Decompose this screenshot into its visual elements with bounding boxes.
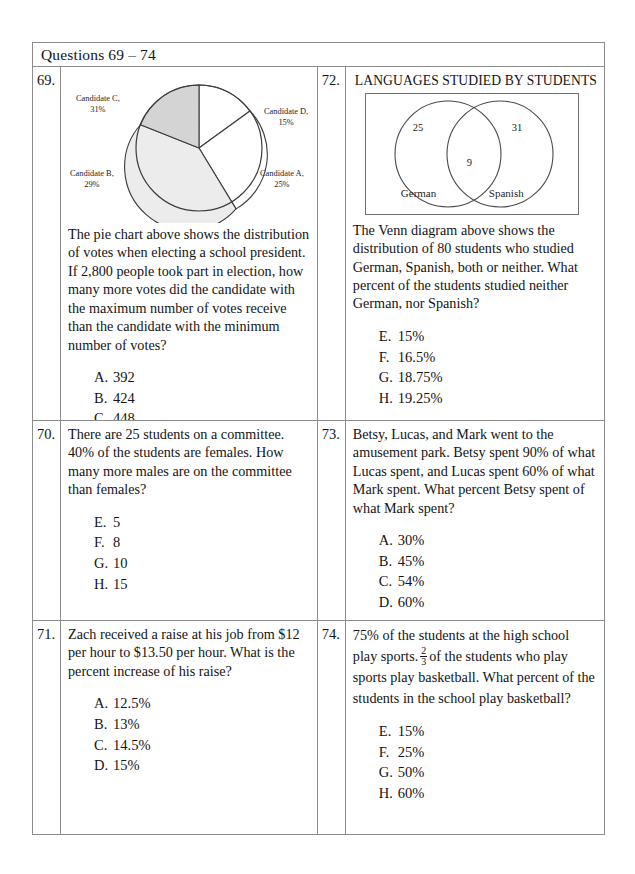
choice-c-value: 448 [113,410,135,420]
question-73: 73. Betsy, Lucas, and Mark went to the a… [318,421,604,621]
choice-b[interactable]: B.424 [94,388,310,409]
question-69-choices: A.392 B.424 C.448 D.416 [68,367,310,420]
choice-h[interactable]: H.19.25% [379,388,597,409]
choice-h[interactable]: H.15 [94,574,310,595]
question-73-text: Betsy, Lucas, and Mark went to the amuse… [353,425,597,517]
choice-a-value: 392 [113,369,135,385]
question-72-number: 72. [318,67,346,420]
choice-f-letter: F. [379,742,398,763]
choice-b-letter: B. [94,714,113,735]
choice-f-value: 8 [113,534,120,550]
venn-label-spanish: Spanish [489,186,524,200]
choice-a-value: 30% [398,532,425,548]
choice-e[interactable]: E.15% [379,326,597,347]
venn-value-german-only: 25 [413,121,424,135]
choice-e-letter: E. [94,512,113,533]
choice-h-letter: H. [379,783,398,804]
pie-label-candidate-c-value: 31% [90,105,105,114]
choice-c-letter: C. [94,735,113,756]
right-column: 72. LANGUAGES STUDIED BY STUDENTS 25 31 … [318,67,604,835]
question-74-body: 75% of the students at the high school p… [346,621,604,834]
venn-diagram-title: LANGUAGES STUDIED BY STUDENTS [355,72,597,90]
choice-d[interactable]: D.15% [94,755,310,776]
question-70-number: 70. [33,421,61,620]
choice-d-value: 60% [398,594,425,610]
questions-header: Questions 69 – 74 [33,43,604,67]
question-71-number: 71. [33,621,61,834]
choice-g[interactable]: G.50% [379,762,597,783]
choice-b[interactable]: B.45% [379,551,597,572]
choice-f[interactable]: F.8 [94,532,310,553]
header-title: Questions 69 – 74 [33,46,156,64]
choice-b[interactable]: B.13% [94,714,310,735]
choice-a[interactable]: A.30% [379,530,597,551]
choice-c[interactable]: C.54% [379,571,597,592]
choice-e-value: 5 [113,514,120,530]
choice-e-value: 15% [398,328,425,344]
choice-g-letter: G. [379,762,398,783]
pie-label-candidate-c-name: Candidate C, [76,94,120,103]
question-73-body: Betsy, Lucas, and Mark went to the amuse… [346,421,604,620]
question-72-body: LANGUAGES STUDIED BY STUDENTS 25 31 9 Ge… [346,67,604,420]
choice-e-letter: E. [379,721,398,742]
venn-diagram: 25 31 9 German Spanish [365,93,579,215]
question-69-number: 69. [33,67,61,420]
choice-f-letter: F. [379,347,398,368]
pie-label-candidate-a-value: 25% [274,180,289,189]
choice-b-letter: B. [94,388,113,409]
question-74-text: 75% of the students at the high school p… [353,625,597,708]
choice-c-letter: C. [94,408,113,420]
choice-a-letter: A. [94,693,113,714]
choice-c-letter: C. [379,571,398,592]
choice-a[interactable]: A.392 [94,367,310,388]
choice-f[interactable]: F.16.5% [379,347,597,368]
venn-value-both: 9 [467,156,472,170]
choice-g-value: 50% [398,764,425,780]
fraction-denominator: 3 [420,656,427,667]
worksheet-page: Questions 69 – 74 69. [32,42,605,835]
choice-a[interactable]: A.12.5% [94,693,310,714]
question-69: 69. [33,67,317,421]
question-72-text: The Venn diagram above shows the distrib… [353,221,597,313]
left-column: 69. [33,67,318,835]
choice-g-letter: G. [379,367,398,388]
choice-d-letter: D. [94,755,113,776]
pie-chart: Candidate C, 31% Candidate D, 15% Candid… [68,73,310,225]
choice-c-value: 14.5% [113,737,150,753]
choice-g-letter: G. [94,553,113,574]
question-74-number: 74. [318,621,346,834]
choice-g[interactable]: G.18.75% [379,367,597,388]
pie-label-candidate-d-name: Candidate D, [264,107,308,116]
question-74: 74. 75% of the students at the high scho… [318,621,604,834]
question-69-body: Candidate C, 31% Candidate D, 15% Candid… [61,67,317,420]
choice-f[interactable]: F.25% [379,742,597,763]
choice-h-letter: H. [94,574,113,595]
questions-grid: 69. [33,67,604,835]
choice-e[interactable]: E.5 [94,512,310,533]
choice-d[interactable]: D.60% [379,592,597,613]
choice-c[interactable]: C.448 [94,408,310,420]
question-74-choices: E.15% F.25% G.50% H.60% [353,721,597,803]
choice-f-value: 25% [398,744,425,760]
choice-c[interactable]: C.14.5% [94,735,310,756]
venn-value-spanish-only: 31 [512,121,523,135]
question-71-text: Zach received a raise at his job from $1… [68,625,310,680]
choice-h-value: 15 [113,576,128,592]
choice-f-letter: F. [94,532,113,553]
fraction-numerator: 2 [420,646,427,656]
choice-g[interactable]: G.10 [94,553,310,574]
choice-d-letter: D. [379,592,398,613]
choice-h[interactable]: H.60% [379,783,597,804]
question-70: 70. There are 25 students on a committee… [33,421,317,621]
pie-label-candidate-b-value: 29% [84,180,99,189]
choice-b-value: 45% [398,553,425,569]
pie-label-candidate-b-name: Candidate B, [70,169,114,178]
pie-label-candidate-c: Candidate C, 31% [76,93,120,115]
pie-label-candidate-a-name: Candidate A, [260,169,304,178]
pie-label-candidate-a: Candidate A, 25% [260,168,304,190]
choice-g-value: 18.75% [398,369,443,385]
choice-g-value: 10 [113,555,128,571]
choice-e-value: 15% [398,723,425,739]
pie-label-candidate-b: Candidate B, 29% [70,168,114,190]
choice-e[interactable]: E.15% [379,721,597,742]
